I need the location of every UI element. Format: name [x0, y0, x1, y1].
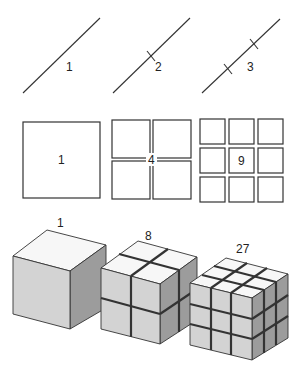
square-9-label: 9: [238, 154, 245, 168]
cube-1-label: 1: [57, 216, 64, 230]
line-2-label: 2: [155, 60, 162, 74]
line-3: 3: [202, 19, 280, 93]
square-4: 4: [112, 120, 191, 199]
line-3-label: 3: [247, 60, 254, 74]
scaling-diagram: 1 2 3 1 4 9 1: [0, 0, 303, 366]
square-4-label: 4: [148, 153, 155, 167]
line-1-label: 1: [66, 60, 73, 74]
square-9: 9: [200, 119, 283, 202]
cube-27-label: 27: [236, 242, 250, 256]
line-1: 1: [23, 18, 100, 93]
line-2: 2: [113, 18, 190, 93]
cube-1: 1: [13, 216, 106, 329]
cube-8: 8: [101, 229, 197, 344]
cube-8-label: 8: [145, 229, 152, 243]
cube-27: 27: [190, 242, 288, 360]
square-1-label: 1: [58, 153, 65, 167]
square-1: 1: [23, 122, 100, 198]
